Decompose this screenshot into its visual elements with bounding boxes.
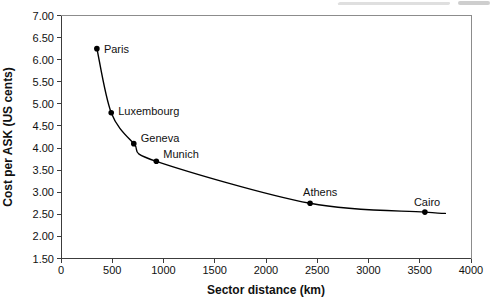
y-tick-label: 2.00 (33, 230, 54, 242)
y-tick-label: 4.50 (33, 120, 54, 132)
y-tick-label: 6.50 (33, 32, 54, 44)
chart-canvas: 050010001500200025003000350040001.502.00… (0, 0, 495, 305)
city-label-geneva: Geneva (141, 132, 180, 144)
data-point-paris (94, 46, 100, 52)
x-tick-label: 1500 (203, 264, 227, 276)
tick-labels: 050010001500200025003000350040001.502.00… (33, 10, 484, 276)
y-tick-label: 1.50 (33, 253, 54, 265)
x-tick-label: 3000 (356, 264, 380, 276)
city-label-athens: Athens (303, 186, 338, 198)
x-tick-label: 2500 (305, 264, 329, 276)
x-axis-title: Sector distance (km) (207, 283, 325, 297)
x-tick-label: 1000 (151, 264, 175, 276)
x-tick-label: 2000 (254, 264, 278, 276)
data-point-cairo (422, 209, 428, 215)
y-axis-title: Cost per ASK (US cents) (1, 67, 15, 207)
y-tick-label: 4.00 (33, 142, 54, 154)
y-tick-label: 3.00 (33, 186, 54, 198)
city-label-paris: Paris (104, 43, 130, 55)
city-label-cairo: Cairo (414, 196, 440, 208)
city-label-munich: Munich (163, 148, 198, 160)
x-tick-label: 3500 (408, 264, 432, 276)
x-tick-label: 4000 (459, 264, 483, 276)
y-tick-label: 5.50 (33, 76, 54, 88)
city-labels: ParisLuxembourgGenevaMunichAthensCairo (104, 43, 440, 208)
x-tick-label: 0 (58, 264, 64, 276)
x-tick-label: 500 (103, 264, 121, 276)
y-tick-label: 7.00 (33, 10, 54, 22)
data-point-luxembourg (108, 110, 114, 116)
data-point-geneva (131, 141, 137, 147)
y-tick-label: 2.50 (33, 208, 54, 220)
data-point-athens (307, 200, 313, 206)
data-point-munich (154, 159, 160, 165)
y-tick-label: 3.50 (33, 164, 54, 176)
city-label-luxembourg: Luxembourg (118, 105, 179, 117)
cost-per-ask-chart-figure: 050010001500200025003000350040001.502.00… (0, 0, 495, 305)
data-points (94, 46, 428, 215)
y-tick-label: 6.00 (33, 54, 54, 66)
y-tick-label: 5.00 (33, 98, 54, 110)
